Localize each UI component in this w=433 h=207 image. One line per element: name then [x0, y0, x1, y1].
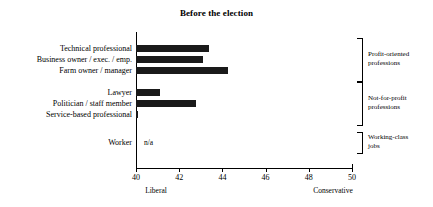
- bar: [136, 56, 203, 63]
- x-tick-label-46: 46: [251, 173, 281, 182]
- category-label: Technical professional: [4, 45, 136, 53]
- x-tick-44: [222, 168, 223, 172]
- bracket-label: Not-for-profitprofessions: [368, 94, 433, 111]
- category-label: Lawyer: [4, 89, 136, 97]
- bar: [136, 111, 138, 118]
- x-axis-line: [136, 168, 352, 169]
- bracket-label-line: professions: [368, 103, 433, 112]
- chart-container: Before the election 404244464850 Liberal…: [0, 0, 433, 207]
- x-tick-42: [179, 168, 180, 172]
- bar: [136, 45, 209, 52]
- bracket: [357, 38, 363, 82]
- bracket-label-line: jobs: [368, 142, 433, 151]
- bracket-label-line: professions: [368, 59, 433, 68]
- x-tick-label-48: 48: [294, 173, 324, 182]
- bar: [136, 100, 196, 107]
- category-label: Politician / staff member: [4, 100, 136, 108]
- x-tick-label-42: 42: [164, 173, 194, 182]
- bar: [136, 67, 228, 74]
- bracket-label-line: Profit-oriented: [368, 50, 433, 59]
- bracket-label: Working-classjobs: [368, 133, 433, 150]
- category-label: Worker: [4, 139, 136, 147]
- axis-label-liberal: Liberal: [131, 186, 181, 195]
- x-tick-48: [309, 168, 310, 172]
- bracket: [357, 132, 363, 154]
- bar: [136, 89, 160, 96]
- x-tick-label-50: 50: [337, 173, 367, 182]
- bracket-label-line: Working-class: [368, 133, 433, 142]
- bracket-label: Profit-orientedprofessions: [368, 50, 433, 67]
- category-label: Business owner / exec. / emp.: [4, 56, 136, 64]
- axis-endcap-right: [352, 164, 353, 169]
- axis-endcap-left: [136, 164, 137, 169]
- axis-label-conservative: Conservative: [303, 186, 363, 195]
- category-label: Service-based professional: [4, 111, 136, 119]
- category-labels: Technical professionalBusiness owner / e…: [0, 0, 136, 207]
- bracket: [357, 82, 363, 126]
- bracket-label-line: Not-for-profit: [368, 94, 433, 103]
- bar-na-label: n/a: [144, 138, 153, 147]
- x-tick-46: [266, 168, 267, 172]
- x-tick-label-44: 44: [207, 173, 237, 182]
- category-label: Farm owner / manager: [4, 67, 136, 75]
